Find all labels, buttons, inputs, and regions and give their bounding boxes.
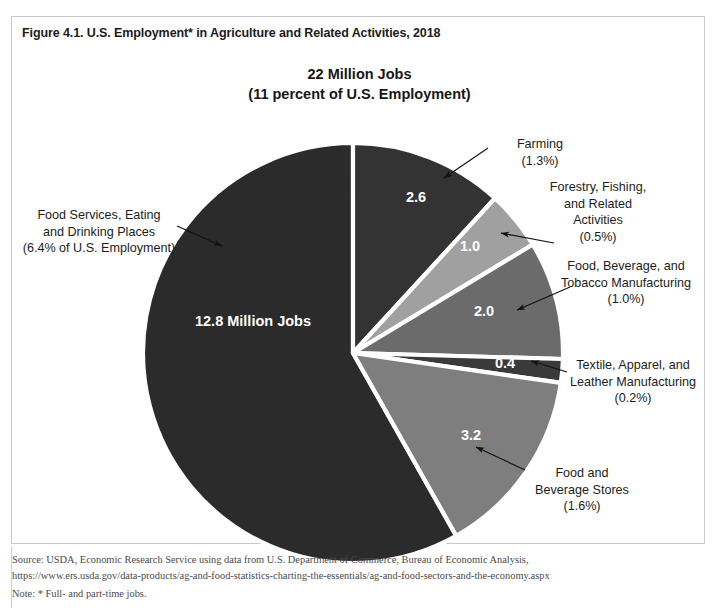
callout-forestry-line-0: Forestry, Fishing, [502, 179, 694, 196]
slice-value-forestry: 1.0 [460, 238, 480, 254]
callout-food-beverage-tobacco: Food, Beverage, and Tobacco Manufacturin… [544, 258, 708, 308]
callout-textile-line-0: Textile, Apparel, and [553, 357, 713, 374]
callout-textile-line-2: (0.2%) [553, 390, 713, 407]
slice-value-food-beverage-stores: 3.2 [461, 427, 481, 443]
callout-food-beverage-stores-line-1: Beverage Stores [512, 482, 652, 499]
callout-food-beverage-tobacco-line-1: Tobacco Manufacturing [544, 275, 708, 292]
callout-farming-line-1: (1.3%) [480, 153, 600, 170]
callout-food-services: Food Services, Eating and Drinking Place… [9, 207, 189, 257]
slice-value-food-beverage-tobacco: 2.0 [474, 303, 494, 319]
figure-footer: Source: USDA, Economic Research Service … [12, 552, 702, 602]
callout-food-beverage-tobacco-line-2: (1.0%) [544, 291, 708, 308]
callout-food-beverage-tobacco-line-0: Food, Beverage, and [544, 258, 708, 275]
slice-value-farming: 2.6 [406, 189, 426, 205]
figure-page: Figure 4.1. U.S. Employment* in Agricult… [0, 0, 719, 611]
callout-forestry-line-3: (0.5%) [502, 229, 694, 246]
footer-note: Note: * Full- and part-time jobs. [12, 586, 702, 602]
footer-source: Source: USDA, Economic Research Service … [12, 552, 702, 568]
callout-food-beverage-stores-line-0: Food and [512, 465, 652, 482]
footer-url[interactable]: https://www.ers.usda.gov/data-products/a… [12, 568, 702, 584]
callout-food-services-line-0: Food Services, Eating [9, 207, 189, 224]
callout-farming: Farming (1.3%) [480, 136, 600, 169]
callout-food-beverage-stores: Food and Beverage Stores (1.6%) [512, 465, 652, 515]
callout-food-services-line-2: (6.4% of U.S. Employment) [9, 240, 189, 257]
callout-food-beverage-stores-line-2: (1.6%) [512, 498, 652, 515]
pie-slices [143, 143, 563, 563]
callout-forestry: Forestry, Fishing, and Related Activitie… [502, 179, 694, 245]
callout-food-services-line-1: and Drinking Places [9, 224, 189, 241]
callout-farming-line-0: Farming [480, 136, 600, 153]
callout-forestry-line-2: Activities [502, 212, 694, 229]
callout-forestry-line-1: and Related [502, 196, 694, 213]
slice-value-textile: 0.4 [495, 355, 515, 371]
callout-textile: Textile, Apparel, and Leather Manufactur… [553, 357, 713, 407]
callout-textile-line-1: Leather Manufacturing [553, 374, 713, 391]
slice-value-food-services: 12.8 Million Jobs [195, 313, 311, 329]
